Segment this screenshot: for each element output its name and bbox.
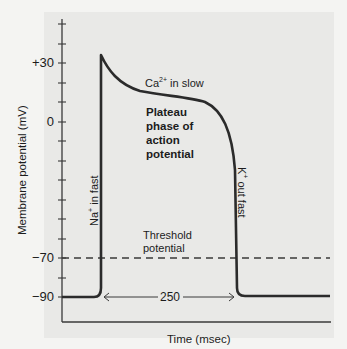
y-tick-label-minus90: −90 (14, 290, 54, 303)
k-out-fast-label: K+ out fast (236, 167, 249, 218)
plateau-phase-label: Plateau phase of action potential (146, 105, 194, 161)
y-tick-label-plus30: +30 (14, 56, 54, 69)
threshold-potential-label: Threshold potential (143, 229, 192, 255)
action-potential-figure: +30 0 −70 −90 Membrane potential (mV) Ti… (0, 0, 347, 349)
ca-in-slow-label: Ca2+ in slow (145, 76, 204, 89)
action-potential-trace (62, 55, 330, 297)
x-axis-title: Time (msec) (167, 334, 230, 346)
duration-label: 250 (160, 291, 180, 303)
na-in-fast-label: Na+ in fast (87, 175, 100, 226)
y-axis-title: Membrane potential (mV) (17, 105, 29, 235)
y-tick-label-minus70: −70 (14, 251, 54, 264)
